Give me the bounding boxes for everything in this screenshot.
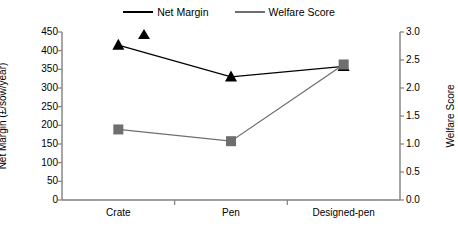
data-point-square-marker [113,124,123,134]
data-point-square-marker [226,136,236,146]
data-point-square-marker [339,59,349,69]
data-point-triangle-marker [112,39,124,50]
chart-plot-area [0,0,458,235]
chart-container: Net Margin Welfare Score Net Margin (£/s… [0,0,458,235]
